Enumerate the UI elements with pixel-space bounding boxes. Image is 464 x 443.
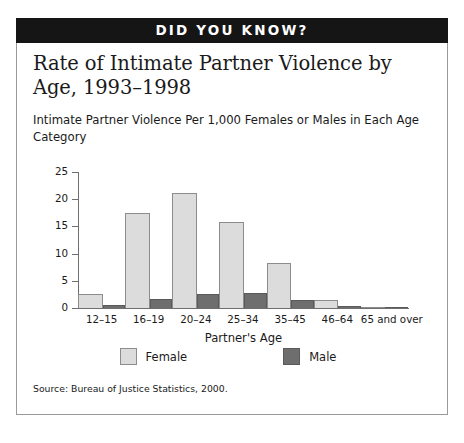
- x-tick-label: 25–34: [219, 313, 266, 325]
- y-tick: 0: [72, 308, 79, 309]
- bar-female: [78, 294, 103, 308]
- x-tick-label: 12–15: [78, 313, 125, 325]
- legend-item: Male: [283, 348, 336, 365]
- bar-female: [267, 263, 292, 308]
- y-tick-label: 25: [55, 165, 68, 177]
- bar-male: [338, 306, 361, 308]
- y-tick-label: 15: [55, 219, 68, 231]
- bar-group: [361, 172, 408, 308]
- bar-male: [291, 300, 314, 308]
- page-title: Rate of Intimate Partner Violence by Age…: [33, 52, 423, 100]
- banner-label: DID YOU KNOW?: [155, 24, 308, 38]
- y-tick-label: 10: [55, 247, 68, 259]
- chart-legend: FemaleMale: [33, 348, 423, 365]
- source-note: Source: Bureau of Justice Statistics, 20…: [33, 383, 228, 394]
- bar-group: [172, 172, 219, 308]
- y-tick-label: 5: [61, 274, 68, 286]
- bar-male: [103, 305, 126, 308]
- y-tick-label: 20: [55, 192, 68, 204]
- legend-swatch-male: [283, 348, 300, 365]
- page-root: DID YOU KNOW? Rate of Intimate Partner V…: [0, 0, 464, 443]
- x-tick-label: 35–45: [267, 313, 314, 325]
- bar-male: [244, 293, 267, 308]
- bar-group: [125, 172, 172, 308]
- did-you-know-banner: DID YOU KNOW?: [16, 18, 448, 43]
- x-axis-line: [78, 308, 409, 309]
- x-tick-label: 65 and over: [361, 313, 408, 325]
- bar-female: [314, 300, 339, 308]
- bar-group: [78, 172, 125, 308]
- chart-subtitle: Intimate Partner Violence Per 1,000 Fema…: [33, 112, 425, 145]
- x-tick-label: 16–19: [125, 313, 172, 325]
- bar-male: [150, 299, 173, 308]
- bar-male: [385, 307, 408, 309]
- x-tick-label: 20–24: [172, 313, 219, 325]
- bar-group: [314, 172, 361, 308]
- bar-female: [125, 213, 150, 308]
- x-tick-label: 46–64: [314, 313, 361, 325]
- legend-swatch-female: [120, 348, 137, 365]
- x-axis-title: Partner's Age: [78, 331, 409, 345]
- legend-label: Female: [146, 350, 188, 364]
- legend-item: Female: [120, 348, 188, 365]
- bar-male: [197, 294, 220, 308]
- bar-female: [172, 193, 197, 308]
- legend-label: Male: [309, 350, 336, 364]
- bar-female: [361, 307, 386, 309]
- y-tick-label: 0: [61, 301, 68, 313]
- bar-group: [219, 172, 266, 308]
- bar-female: [219, 222, 244, 308]
- bar-group: [267, 172, 314, 308]
- bar-chart: 0510152025 12–1516–1920–2425–3435–4546–6…: [33, 163, 423, 323]
- plot-area: [78, 172, 408, 308]
